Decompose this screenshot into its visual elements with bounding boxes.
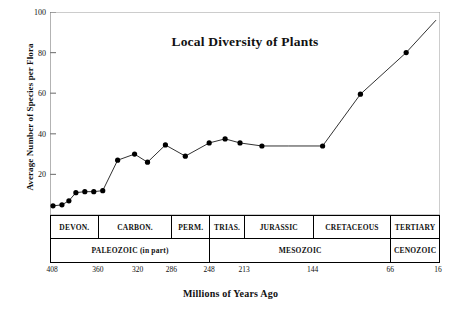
x-tick-label: 213 [238, 265, 249, 274]
chart-figure: Average Number of Species per Flora 2040… [0, 0, 461, 317]
x-tick-label: 16 [434, 265, 442, 274]
plot-area: 20406080100 Local Diversity of Plants [50, 12, 440, 215]
x-axis-ticks: 4083603202862482131446616 [50, 265, 440, 277]
band-cell: CARBON. [98, 215, 172, 239]
band-cell: CENOZOIC [390, 239, 440, 263]
band-cell: JURASSIC [244, 215, 313, 239]
band-cell: PERM. [171, 215, 209, 239]
x-axis-title: Millions of Years Ago [0, 288, 461, 299]
x-tick-label: 286 [166, 265, 177, 274]
band-cell: TERTIARY [390, 215, 440, 239]
band-label: CENOZOIC [394, 246, 436, 255]
x-tick-label: 408 [46, 265, 57, 274]
period-row: DEVON.CARBON.PERM.TRIAS.JURASSICCRETACEO… [50, 215, 440, 239]
band-label: PALEOZOIC (in part) [92, 246, 169, 255]
x-tick-label: 66 [387, 265, 395, 274]
x-tick-label: 248 [204, 265, 215, 274]
era-row: PALEOZOIC (in part)MESOZOICCENOZOIC [50, 239, 440, 263]
band-label: TRIAS. [214, 223, 240, 232]
band-label: MESOZOIC [279, 246, 322, 255]
band-cell: PALEOZOIC (in part) [50, 239, 209, 263]
y-tick-label: 20 [38, 170, 46, 179]
y-tick-label: 100 [34, 8, 46, 17]
y-tick-label: 40 [38, 129, 46, 138]
band-cell: DEVON. [50, 215, 98, 239]
band-label: DEVON. [59, 223, 89, 232]
band-cell: CRETACEOUS [313, 215, 391, 239]
x-tick-label: 360 [92, 265, 103, 274]
band-label: CARBON. [117, 223, 153, 232]
y-tick-label: 60 [38, 89, 46, 98]
x-tick-label: 320 [132, 265, 143, 274]
band-label: TERTIARY [395, 223, 436, 232]
band-label: JURASSIC [260, 223, 298, 232]
chart-title: Local Diversity of Plants [50, 34, 440, 50]
y-tick-label: 80 [38, 48, 46, 57]
y-axis-title: Average Number of Species per Flora [25, 17, 35, 217]
band-cell: TRIAS. [209, 215, 244, 239]
x-tick-label: 144 [307, 265, 318, 274]
band-cell: MESOZOIC [209, 239, 390, 263]
geologic-time-bands: DEVON.CARBON.PERM.TRIAS.JURASSICCRETACEO… [50, 215, 440, 263]
band-label: CRETACEOUS [325, 223, 379, 232]
band-label: PERM. [178, 223, 203, 232]
